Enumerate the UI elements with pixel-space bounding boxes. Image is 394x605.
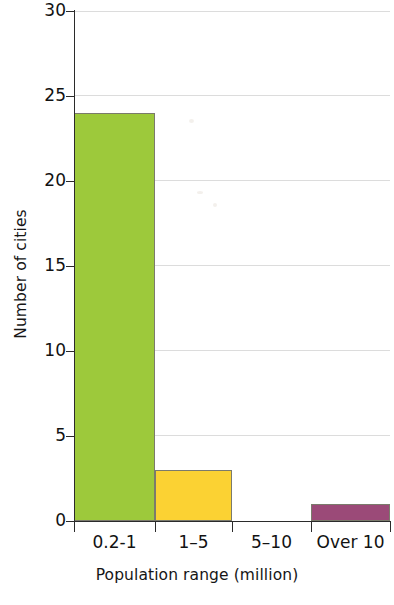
gridline-30 xyxy=(74,11,390,12)
scan-artifact xyxy=(213,203,217,207)
x-tick-mark-1 xyxy=(155,521,156,532)
x-tick-label-1: 1–5 xyxy=(155,534,232,551)
y-tick-mark-30 xyxy=(66,11,75,12)
bar-1 xyxy=(155,470,232,521)
x-tick-mark-3 xyxy=(311,521,312,532)
x-tick-label-2: 5–10 xyxy=(232,534,311,551)
x-tick-label-0: 0.2-1 xyxy=(74,534,155,551)
y-tick-label-0: 0 xyxy=(22,512,66,529)
y-tick-label-5: 5 xyxy=(22,427,66,444)
y-tick-mark-15 xyxy=(66,266,75,267)
x-axis-title: Population range (million) xyxy=(0,566,394,584)
bar-0 xyxy=(74,113,155,521)
y-tick-label-25: 25 xyxy=(22,87,66,104)
bar-chart: 30 25 20 15 10 5 0 Number of cities 0.2-… xyxy=(0,0,394,605)
bar-3 xyxy=(311,504,390,521)
y-axis-title: Number of cities xyxy=(12,174,30,374)
gridline-25 xyxy=(74,95,390,96)
x-tick-mark-4 xyxy=(390,521,391,532)
x-tick-label-3: Over 10 xyxy=(309,534,392,551)
scan-artifact xyxy=(197,191,203,194)
y-tick-label-30: 30 xyxy=(22,2,66,19)
x-tick-mark-0 xyxy=(74,521,75,532)
y-tick-mark-25 xyxy=(66,96,75,97)
y-tick-mark-20 xyxy=(66,181,75,182)
plot-area xyxy=(74,11,390,521)
scan-artifact xyxy=(189,119,194,123)
y-tick-mark-5 xyxy=(66,436,75,437)
x-tick-mark-2 xyxy=(232,521,233,532)
y-tick-mark-10 xyxy=(66,351,75,352)
